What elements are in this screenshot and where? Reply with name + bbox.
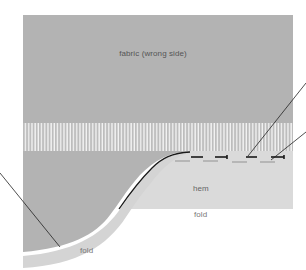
hem-label: hem <box>193 184 209 193</box>
fold-label-curve: fold <box>80 246 93 255</box>
fringe-band <box>23 123 293 151</box>
hem-diagram: fabric (wrong side) hem fold fold <box>0 0 306 270</box>
diagram-canvas <box>0 0 306 270</box>
fabric-label: fabric (wrong side) <box>0 49 306 58</box>
fold-label-hem: fold <box>194 210 207 219</box>
fabric-panel <box>23 15 293 123</box>
